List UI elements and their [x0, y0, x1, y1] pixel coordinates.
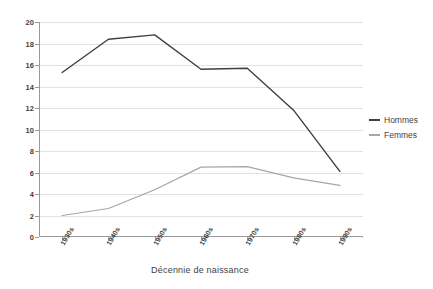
legend-item-hommes[interactable]: Hommes: [369, 112, 433, 127]
series-line-hommes: [62, 35, 340, 172]
y-axis-tick-label: 16: [8, 61, 34, 70]
y-axis-tick-label: 10: [8, 126, 34, 135]
y-axis-tick-mark: [35, 216, 39, 217]
y-axis-tick-mark: [35, 44, 39, 45]
series-lines-group: [39, 22, 363, 237]
legend-swatch-icon: [369, 119, 380, 121]
y-axis-tick-label: 8: [8, 147, 34, 156]
y-axis-tick-mark: [35, 194, 39, 195]
x-axis-title: Décennie de naissance: [0, 265, 400, 275]
y-axis-tick-label: 0: [8, 233, 34, 242]
legend-swatch-icon: [369, 134, 380, 136]
y-axis-tick-mark: [35, 108, 39, 109]
legend-label: Femmes: [384, 130, 417, 140]
y-axis-tick-label: 6: [8, 169, 34, 178]
y-axis-tick-mark: [35, 22, 39, 23]
line-chart-figure: Décennie de naissance HommesFemmes 02468…: [0, 0, 433, 289]
y-axis-tick-mark: [35, 65, 39, 66]
y-axis-tick-label: 4: [8, 190, 34, 199]
legend-item-femmes[interactable]: Femmes: [369, 127, 433, 142]
legend-label: Hommes: [384, 115, 418, 125]
y-axis-tick-mark: [35, 237, 39, 238]
series-line-femmes: [62, 167, 340, 216]
y-axis-tick-label: 18: [8, 40, 34, 49]
y-axis-tick-mark: [35, 130, 39, 131]
y-axis-tick-label: 20: [8, 18, 34, 27]
y-axis-tick-mark: [35, 87, 39, 88]
y-axis-tick-label: 12: [8, 104, 34, 113]
chart-legend: HommesFemmes: [369, 112, 433, 142]
y-axis-tick-mark: [35, 151, 39, 152]
y-axis-tick-label: 2: [8, 212, 34, 221]
y-axis-tick-mark: [35, 173, 39, 174]
y-axis-tick-label: 14: [8, 83, 34, 92]
